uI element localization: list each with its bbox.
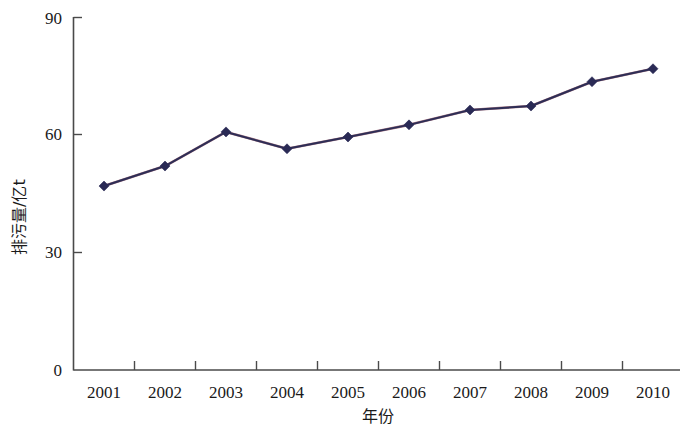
x-tick-label-2009: 2009 xyxy=(575,383,609,402)
x-tick-label-2008: 2008 xyxy=(514,383,548,402)
data-point-marker xyxy=(526,101,536,111)
data-point-marker xyxy=(587,77,597,87)
data-point-marker xyxy=(282,144,292,154)
line-chart: 排污量/亿t 90 60 30 0 2001 2002 2003 2004 xyxy=(0,0,681,435)
data-point-marker xyxy=(221,127,231,137)
x-tick-label-2002: 2002 xyxy=(148,383,182,402)
x-tick-label-2001: 2001 xyxy=(87,383,121,402)
x-tick-label-2007: 2007 xyxy=(453,383,488,402)
y-tick-label-0: 0 xyxy=(54,361,63,380)
x-tick-label-2010: 2010 xyxy=(636,383,670,402)
x-tick-label-2005: 2005 xyxy=(331,383,365,402)
data-point-marker xyxy=(404,120,414,130)
y-tick-label-60: 60 xyxy=(45,125,62,144)
data-point-marker xyxy=(343,132,353,142)
y-tick-label-30: 30 xyxy=(45,243,62,262)
x-tick-label-2004: 2004 xyxy=(270,383,305,402)
data-point-marker xyxy=(99,181,109,191)
chart-canvas: 排污量/亿t 90 60 30 0 2001 2002 2003 2004 xyxy=(0,0,681,435)
series-line xyxy=(104,69,653,186)
series-line-underlay xyxy=(104,69,653,186)
x-tick-label-2006: 2006 xyxy=(392,383,426,402)
data-point-marker xyxy=(160,161,170,171)
data-point-marker xyxy=(648,64,658,74)
x-tick-marks xyxy=(135,361,623,370)
series-markers xyxy=(99,64,658,191)
x-axis-title: 年份 xyxy=(362,407,394,426)
y-tick-label-90: 90 xyxy=(45,9,62,28)
x-tick-label-2003: 2003 xyxy=(209,383,243,402)
y-axis-title: 排污量/亿t xyxy=(10,179,29,255)
data-point-marker xyxy=(465,105,475,115)
